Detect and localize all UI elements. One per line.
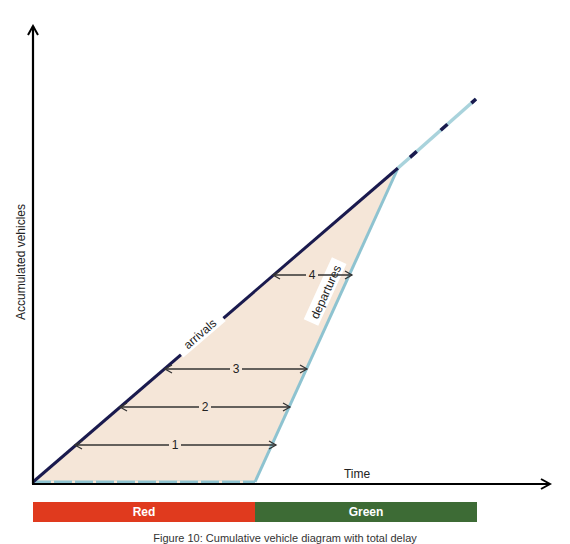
delay-marker-2-label: 2 [202,400,209,414]
delay-marker-3-label: 3 [233,362,240,376]
signal-phase-red: Red [33,502,255,522]
y-axis-label: Accumulated vehicles [14,204,28,320]
figure-caption: Figure 10: Cumulative vehicle diagram wi… [0,532,570,544]
signal-phase-red-label: Red [133,505,156,519]
signal-phase-green: Green [255,502,477,522]
delay-marker-1-label: 1 [172,438,179,452]
signal-phase-green-label: Green [349,505,384,519]
combined-flow-line [398,99,476,168]
x-axis-label: Time [344,467,371,481]
delay-marker-4-label: 4 [309,268,316,282]
